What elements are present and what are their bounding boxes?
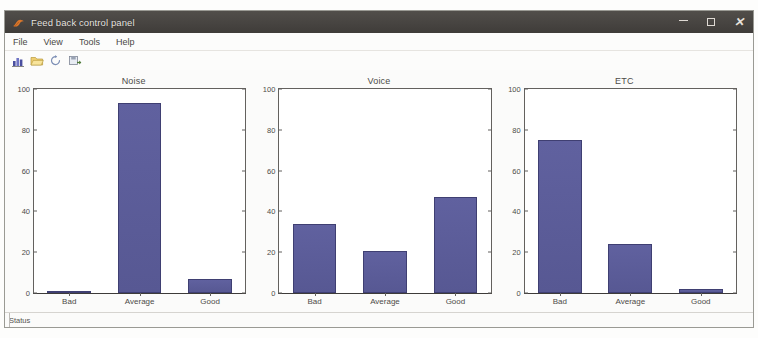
y-tick-mark [525,129,528,130]
x-label: Bad [553,297,567,306]
bar[interactable] [608,244,652,293]
x-label: Average [125,297,155,306]
y-tick-mark-right [488,293,491,294]
chart-panel-voice: Voice Bad Average [256,74,501,312]
chart-title-etc: ETC [502,74,747,88]
bar[interactable] [363,251,407,293]
bars-noise: Bad Average Good [34,89,245,293]
bar[interactable] [538,140,582,293]
bar-slot: Average [595,89,665,293]
window-controls: ✕ [669,11,753,33]
open-folder-icon[interactable] [29,53,45,69]
x-tick [701,293,702,296]
y-tick-mark [279,293,282,294]
charts-container: Noise Bad Average [5,70,753,312]
application-window: Feed back control panel ✕ File View Tool… [4,10,754,328]
save-export-icon[interactable] [67,53,83,69]
y-tick-label: 20 [512,248,524,257]
y-tick-mark-right [488,129,491,130]
axes-voice: Bad Average Good [278,88,491,294]
maximize-button[interactable] [697,11,725,33]
bar-slot: Good [420,89,490,293]
x-label: Average [615,297,645,306]
bar[interactable] [118,103,162,293]
bar-chart-icon[interactable] [10,53,26,69]
status-text: Status [9,316,30,325]
x-label: Average [370,297,400,306]
window-title: Feed back control panel [31,17,135,28]
refresh-arrow-icon[interactable] [48,53,64,69]
toolbar [5,51,753,70]
bars-voice: Bad Average Good [279,89,490,293]
menu-item-help[interactable]: Help [114,37,143,47]
y-tick-mark-right [242,211,245,212]
x-tick [385,293,386,296]
bar-slot: Good [666,89,736,293]
x-tick [630,293,631,296]
plot-wrap-voice: Bad Average Good [256,88,501,312]
y-tick-label: 80 [512,125,524,134]
bar-slot: Average [350,89,420,293]
y-tick-mark [34,129,37,130]
y-tick-mark-right [488,89,491,90]
y-tick-mark [279,211,282,212]
y-tick-mark [34,170,37,171]
y-tick-mark [34,252,37,253]
y-tick-mark [279,89,282,90]
plot-wrap-noise: Bad Average Good [11,88,256,312]
y-tick-mark-right [242,170,245,171]
chart-title-noise: Noise [11,74,256,88]
y-tick-mark [34,211,37,212]
y-tick-mark [279,252,282,253]
y-tick-label: 100 [508,85,525,94]
x-label: Good [200,297,220,306]
y-tick-mark-right [733,89,736,90]
menu-item-tools[interactable]: Tools [77,37,108,47]
y-tick-label: 20 [22,248,34,257]
menu-item-view[interactable]: View [42,37,71,47]
y-tick-label: 40 [512,207,524,216]
y-tick-label: 0 [271,289,279,298]
y-tick-label: 40 [22,207,34,216]
y-tick-mark [279,129,282,130]
screenshot-root: Feed back control panel ✕ File View Tool… [0,0,758,338]
y-tick-mark-right [242,293,245,294]
y-tick-label: 60 [512,166,524,175]
y-tick-label: 80 [267,125,279,134]
x-tick [560,293,561,296]
close-button[interactable]: ✕ [725,11,753,33]
menu-item-file[interactable]: File [11,37,36,47]
chart-title-voice: Voice [256,74,501,88]
status-bar: Status [5,312,753,327]
y-tick-label: 0 [516,289,524,298]
y-tick-mark-right [733,211,736,212]
x-label: Good [446,297,466,306]
axes-etc: Bad Average Good [524,88,737,294]
bar[interactable] [188,279,232,293]
y-tick-label: 100 [263,85,280,94]
x-tick [315,293,316,296]
bar[interactable] [293,224,337,293]
x-tick [455,293,456,296]
matlab-figure-icon [12,16,25,29]
bar[interactable] [434,197,478,293]
status-divider [9,313,10,327]
minimize-button[interactable] [669,11,697,33]
x-label: Bad [62,297,76,306]
axes-noise: Bad Average Good [33,88,246,294]
y-tick-mark-right [488,211,491,212]
y-tick-mark [34,89,37,90]
y-tick-mark [525,211,528,212]
plot-wrap-etc: Bad Average Good [502,88,747,312]
y-tick-label: 60 [267,166,279,175]
title-bar[interactable]: Feed back control panel ✕ [5,11,753,33]
x-label: Bad [307,297,321,306]
y-tick-mark [34,293,37,294]
bar-slot: Bad [279,89,349,293]
bar-slot: Bad [525,89,595,293]
y-tick-mark-right [242,129,245,130]
y-tick-label: 40 [267,207,279,216]
y-tick-mark-right [488,252,491,253]
y-tick-mark-right [733,129,736,130]
y-tick-mark-right [733,293,736,294]
